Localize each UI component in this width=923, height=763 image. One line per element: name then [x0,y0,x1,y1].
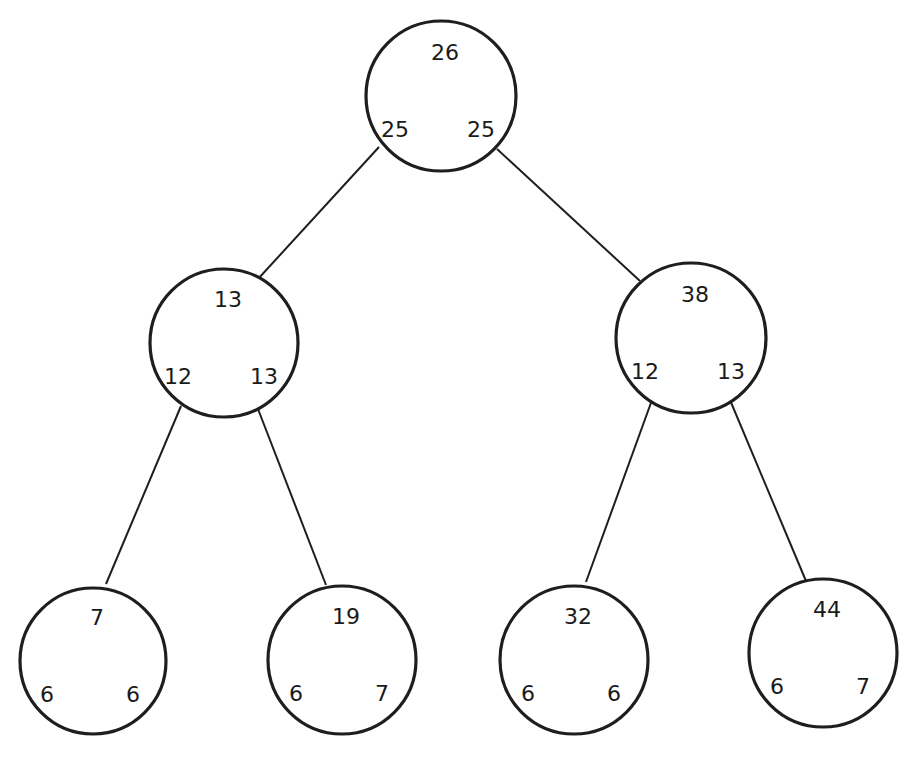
node-right-count: 13 [717,359,745,384]
node-key-label: 38 [681,282,709,307]
edge-root-n_r [497,149,640,281]
node-key-label: 32 [564,604,592,629]
node-key-label: 19 [332,604,360,629]
binary-tree-diagram: 262525131213381213766196732664467 [0,0,923,763]
node-left-count: 6 [40,682,54,707]
node-right-count: 13 [250,364,278,389]
edge-n_l-n_lr [258,409,326,585]
node-key-label: 26 [431,40,459,65]
edge-n_r-n_rr [730,400,806,581]
tree-node-n_rl: 3266 [500,586,648,734]
tree-node-n_rr: 4467 [749,579,897,727]
node-left-count: 6 [289,681,303,706]
node-right-count: 7 [856,674,870,699]
node-left-count: 12 [631,359,659,384]
node-right-count: 6 [126,682,140,707]
node-left-count: 25 [381,117,409,142]
tree-node-n_r: 381213 [616,263,766,413]
tree-node-n_lr: 1967 [268,586,416,734]
node-left-count: 6 [770,674,784,699]
node-key-label: 13 [214,287,242,312]
tree-node-n_l: 131213 [150,269,298,417]
node-key-label: 7 [90,605,104,630]
node-left-count: 6 [521,681,535,706]
nodes: 262525131213381213766196732664467 [20,21,897,734]
node-key-label: 44 [813,597,841,622]
node-right-count: 7 [375,681,389,706]
tree-node-n_ll: 766 [20,588,166,734]
edge-n_l-n_ll [106,406,181,584]
node-right-count: 6 [607,681,621,706]
node-left-count: 12 [164,364,192,389]
edge-root-n_l [258,147,379,279]
node-right-count: 25 [467,117,495,142]
edge-n_r-n_rl [586,400,652,582]
tree-node-root: 262525 [366,21,516,171]
